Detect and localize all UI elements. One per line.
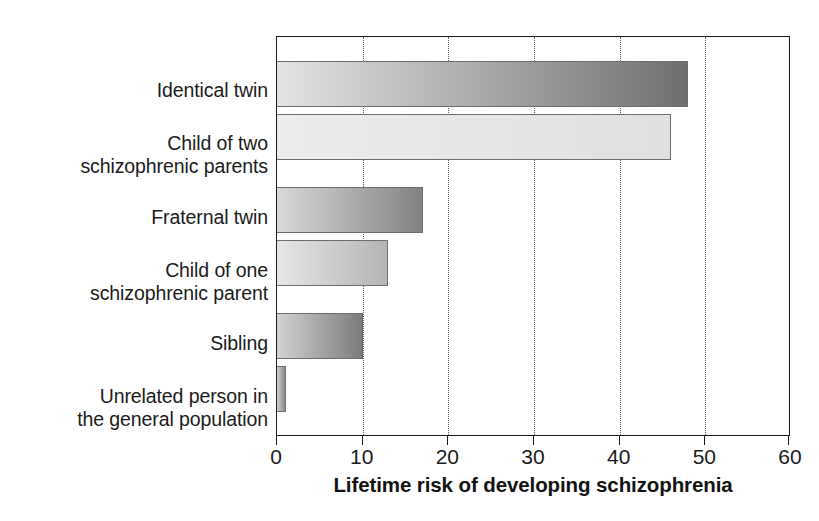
bar-chart: Identical twin Child of two schizophreni… — [0, 0, 819, 521]
x-tick-label-20: 20 — [436, 444, 459, 470]
bar-child-of-one-schizophrenic-parent — [277, 240, 388, 286]
bar-child-of-two-schizophrenic-parents — [277, 114, 671, 160]
bar-fraternal-twin — [277, 187, 423, 233]
x-tick-label-10: 10 — [350, 444, 373, 470]
category-label-identical-twin: Identical twin — [0, 79, 268, 102]
x-tick-label-60: 60 — [778, 444, 801, 470]
category-label-child-of-two-schizophrenic-parents: Child of two schizophrenic parents — [0, 132, 268, 178]
x-tick-label-40: 40 — [607, 444, 630, 470]
x-tick-label-50: 50 — [693, 444, 716, 470]
x-axis-title: Lifetime risk of developing schizophreni… — [276, 473, 790, 497]
category-axis-labels: Identical twin Child of two schizophreni… — [0, 36, 268, 436]
bar-series — [277, 37, 789, 435]
category-label-unrelated-person-general-population: Unrelated person in the general populati… — [0, 385, 268, 431]
x-tick-label-30: 30 — [521, 444, 544, 470]
x-tick-label-0: 0 — [270, 444, 282, 470]
category-label-child-of-one-schizophrenic-parent: Child of one schizophrenic parent — [0, 259, 268, 305]
x-axis-tick-labels: 0102030405060 — [0, 444, 819, 472]
bar-unrelated-person-general-population — [277, 366, 286, 412]
plot-area — [276, 36, 790, 436]
category-label-fraternal-twin: Fraternal twin — [0, 206, 268, 229]
category-label-sibling: Sibling — [0, 332, 268, 355]
bar-sibling — [277, 313, 363, 359]
bar-identical-twin — [277, 61, 688, 107]
